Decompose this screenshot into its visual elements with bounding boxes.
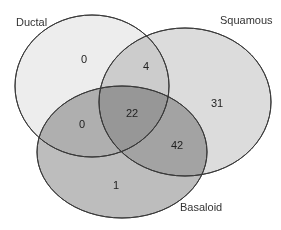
region-squamous-basaloid: 42 — [171, 139, 183, 151]
region-ductal-basaloid: 0 — [79, 118, 85, 130]
squamous-label: Squamous — [220, 14, 273, 26]
venn-diagram: Ductal Squamous Basaloid 0 31 1 4 0 42 2… — [0, 0, 281, 230]
ductal-label: Ductal — [16, 16, 47, 28]
region-ductal-squamous: 4 — [143, 60, 149, 72]
region-all-three: 22 — [126, 107, 138, 119]
region-squamous-only: 31 — [211, 97, 223, 109]
basaloid-label: Basaloid — [180, 201, 222, 213]
region-basaloid-only: 1 — [113, 179, 119, 191]
region-ductal-only: 0 — [81, 53, 87, 65]
